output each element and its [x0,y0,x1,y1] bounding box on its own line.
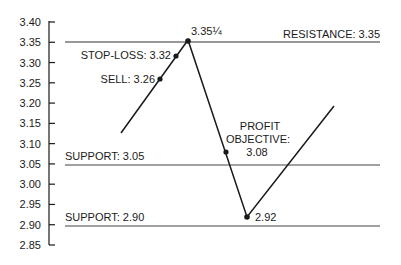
support-lower-label: SUPPORT: 2.90 [65,211,144,223]
y-axis-ticks: 3.403.353.303.253.203.153.103.053.002.95… [20,16,55,251]
support-upper-label: SUPPORT: 3.05 [65,150,144,162]
y-tick-label: 2.90 [20,219,41,231]
y-tick-label: 3.20 [20,97,41,109]
price-path-line [121,40,334,217]
y-tick-label: 3.10 [20,138,41,150]
profit-objective-label-3: 3.08 [246,146,267,158]
y-tick-label: 2.85 [20,239,41,251]
sell-label: SELL: 3.26 [101,73,155,85]
resistance-label: RESISTANCE: 3.35 [283,28,380,40]
y-tick-label: 3.25 [20,77,41,89]
y-tick-label: 3.00 [20,178,41,190]
trough-label: 2.92 [255,211,276,223]
y-tick-label: 2.95 [20,198,41,210]
peak-label: 3.35¼ [191,25,222,37]
y-tick-label: 3.35 [20,36,41,48]
price-chart: 3.403.353.303.253.203.153.103.053.002.95… [0,0,401,265]
y-tick-label: 3.40 [20,16,41,28]
profit-objective-label-2: OBJECTIVE: [226,133,290,145]
peak-point [185,38,191,44]
y-tick-label: 3.05 [20,158,41,170]
profit-objective-point [223,149,228,154]
stop-loss-point [173,53,178,58]
y-tick-label: 3.30 [20,57,41,69]
sell-point [157,76,162,81]
profit-objective-label-1: PROFIT [240,120,281,132]
y-tick-label: 3.15 [20,117,41,129]
trough-point [244,214,250,220]
stop-loss-label: STOP-LOSS: 3.32 [81,49,171,61]
